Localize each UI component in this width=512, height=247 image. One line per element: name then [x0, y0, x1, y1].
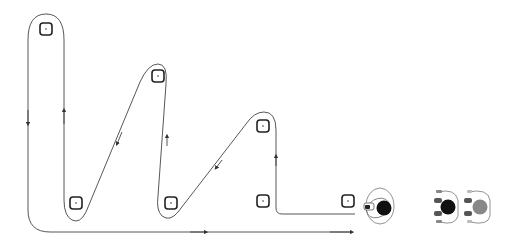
location-marker-icon [257, 195, 269, 207]
cart-gray-icon [464, 190, 490, 223]
location-marker-icon [40, 23, 52, 35]
cart-dark-icon [434, 190, 458, 223]
location-markers [40, 23, 354, 209]
arrow-down-aisle-3 [117, 132, 122, 144]
worker-with-cart-icon [363, 188, 394, 224]
location-marker-icon [152, 70, 164, 82]
location-marker-icon [70, 197, 82, 209]
location-marker-icon [342, 195, 354, 207]
location-marker-icon [165, 197, 177, 209]
location-marker-icon [257, 120, 269, 132]
pick-path-diagram [0, 0, 512, 247]
